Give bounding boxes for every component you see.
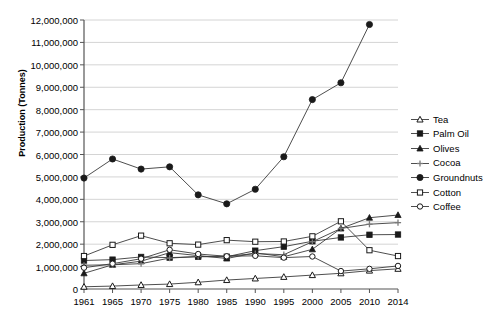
x-tick-label: 2014 xyxy=(387,296,408,307)
y-axis-tick-labels: 01,000,0002,000,0003,000,0004,000,0005,0… xyxy=(0,0,78,328)
x-tick-label: 1965 xyxy=(102,296,123,307)
series-cotton xyxy=(81,219,400,259)
cotton-marker-icon xyxy=(410,186,430,199)
legend-item-groundnuts[interactable]: Groundnuts xyxy=(410,170,483,185)
legend-label: Tea xyxy=(433,115,448,125)
y-tick-label: 9,000,000 xyxy=(4,82,78,93)
legend-label: Cocoa xyxy=(433,158,460,168)
series-tea xyxy=(81,266,401,290)
legend-item-palm-oil[interactable]: Palm Oil xyxy=(410,127,483,142)
y-tick-label: 1,000,000 xyxy=(4,261,78,272)
x-tick-label: 1961 xyxy=(73,296,94,307)
y-tick-label: 12,000,000 xyxy=(4,15,78,26)
y-tick-label: 4,000,000 xyxy=(4,194,78,205)
y-tick-label: 6,000,000 xyxy=(4,149,78,160)
x-tick-label: 1980 xyxy=(188,296,209,307)
y-tick-label: 3,000,000 xyxy=(4,216,78,227)
y-tick-label: 8,000,000 xyxy=(4,104,78,115)
x-tick-label: 2000 xyxy=(302,296,323,307)
legend-label: Olives xyxy=(433,144,459,154)
x-tick-label: 1970 xyxy=(131,296,152,307)
production-line-chart: Production (Tonnes) 01,000,0002,000,0003… xyxy=(0,0,504,328)
legend-label: Groundnuts xyxy=(433,173,483,183)
series-palm-oil xyxy=(81,232,400,263)
legend-item-cotton[interactable]: Cotton xyxy=(410,185,483,200)
y-tick-label: 10,000,000 xyxy=(4,59,78,70)
olives-marker-icon xyxy=(410,142,430,155)
series-coffee xyxy=(81,247,400,274)
cocoa-marker-icon xyxy=(410,157,430,170)
legend-label: Palm Oil xyxy=(433,129,469,139)
legend-item-tea[interactable]: Tea xyxy=(410,112,483,127)
groundnuts-marker-icon xyxy=(410,171,430,184)
x-tick-label: 1990 xyxy=(245,296,266,307)
legend-item-coffee[interactable]: Coffee xyxy=(410,200,483,215)
tea-marker-icon xyxy=(410,113,430,126)
legend-item-cocoa[interactable]: Cocoa xyxy=(410,156,483,171)
legend-label: Cotton xyxy=(433,188,461,198)
legend-item-olives[interactable]: Olives xyxy=(410,141,483,156)
x-tick-label: 1985 xyxy=(216,296,237,307)
y-tick-label: 11,000,000 xyxy=(4,37,78,48)
x-tick-label: 1975 xyxy=(159,296,180,307)
x-tick-label: 1995 xyxy=(273,296,294,307)
y-tick-label: 0 xyxy=(4,284,78,295)
x-tick-label: 2005 xyxy=(330,296,351,307)
y-tick-label: 5,000,000 xyxy=(4,171,78,182)
y-tick-label: 2,000,000 xyxy=(4,239,78,250)
coffee-marker-icon xyxy=(410,200,430,213)
chart-legend: TeaPalm OilOlivesCocoaGroundnutsCottonCo… xyxy=(410,112,483,214)
series-groundnuts xyxy=(81,21,373,207)
y-tick-label: 7,000,000 xyxy=(4,127,78,138)
x-tick-label: 2010 xyxy=(359,296,380,307)
palm-oil-marker-icon xyxy=(410,127,430,140)
legend-label: Coffee xyxy=(433,202,461,212)
